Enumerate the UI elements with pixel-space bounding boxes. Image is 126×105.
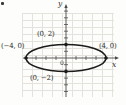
point-label-top: (0, 2) — [37, 31, 55, 38]
point-dot-bottom — [64, 70, 68, 74]
y-axis-arrowhead — [64, 4, 67, 8]
point-label-right: (4, 0) — [99, 43, 117, 50]
point-dot-left — [24, 56, 28, 60]
point-label-left: (−4, 0) — [1, 43, 24, 50]
ellipse-figure: (0, 2) (−4, 0) (4, 0) (0, −2) 0 y x — [0, 0, 126, 105]
point-dot-top — [64, 43, 68, 47]
plot-canvas — [0, 0, 126, 105]
point-label-bottom: (0, −2) — [30, 75, 53, 82]
x-axis-label: x — [112, 61, 116, 68]
y-axis-label: y — [58, 0, 62, 7]
origin-label: 0 — [60, 60, 64, 66]
point-dot-right — [104, 56, 108, 60]
